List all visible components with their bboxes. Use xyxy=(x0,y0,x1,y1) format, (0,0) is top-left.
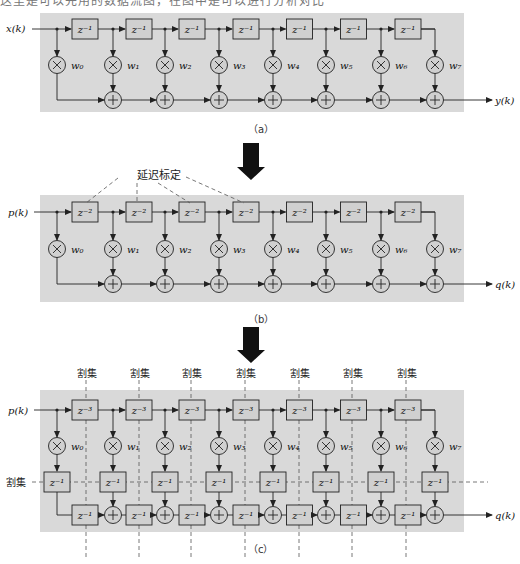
delay-label: z⁻¹ xyxy=(345,24,361,35)
cutset-label: 割集 xyxy=(236,367,256,379)
pipeline-delay-block: z⁻¹ xyxy=(72,505,98,525)
input-label: p(k) xyxy=(8,207,28,218)
adder-node xyxy=(427,276,444,293)
pipeline-delay-block: z⁻¹ xyxy=(179,505,205,525)
delay-label: z⁻¹ xyxy=(157,477,173,488)
weight-label: w₆ xyxy=(395,244,408,255)
delay-label: z⁻³ xyxy=(291,405,307,416)
weight-label: w₀ xyxy=(71,60,84,71)
cutset-label: 割集 xyxy=(77,367,97,379)
delay-label: z⁻¹ xyxy=(291,24,307,35)
delay-block: z⁻³ xyxy=(395,400,421,420)
adder-node xyxy=(157,92,174,109)
cutset-label: 割集 xyxy=(130,367,150,379)
delay-label: z⁻¹ xyxy=(400,510,416,521)
adder-node xyxy=(157,276,174,293)
delay-label: z⁻² xyxy=(291,207,307,218)
delay-block: z⁻³ xyxy=(179,400,205,420)
adder-node xyxy=(318,276,335,293)
output-label: q(k) xyxy=(495,510,515,521)
fir-retiming-diagram: x(k)z⁻¹w₀z⁻¹w₁z⁻¹w₂z⁻¹w₃z⁻¹w₄z⁻¹w₅z⁻¹w₆w… xyxy=(0,0,520,564)
delay-label: z⁻¹ xyxy=(184,510,200,521)
delay-label: z⁻² xyxy=(131,207,147,218)
weight-label: w₄ xyxy=(287,441,300,452)
weight-label: w₀ xyxy=(71,244,84,255)
pipeline-delay-block: z⁻¹ xyxy=(422,472,448,492)
weight-label: w₂ xyxy=(179,60,192,71)
output-label: q(k) xyxy=(495,279,515,290)
delay-label: z⁻¹ xyxy=(211,477,227,488)
adder-node xyxy=(105,507,122,524)
panel-a-direct-form-fir: x(k)z⁻¹w₀z⁻¹w₁z⁻¹w₂z⁻¹w₃z⁻¹w₄z⁻¹w₅z⁻¹w₆w… xyxy=(6,13,515,112)
weight-label: w₃ xyxy=(233,244,246,255)
delay-block: z⁻³ xyxy=(341,400,367,420)
cutset-label: 割集 xyxy=(182,367,202,379)
delay-label: z⁻³ xyxy=(77,405,93,416)
delay-block: z⁻² xyxy=(395,202,421,222)
delay-label: z⁻² xyxy=(184,207,200,218)
adder-node xyxy=(373,92,390,109)
weight-label: w₅ xyxy=(340,244,353,255)
delay-block: z⁻³ xyxy=(72,400,98,420)
delay-label: z⁻² xyxy=(345,207,361,218)
pipeline-delay-block: z⁻¹ xyxy=(260,472,286,492)
delay-label: z⁻¹ xyxy=(184,24,200,35)
adder-node xyxy=(373,276,390,293)
delay-label: z⁻¹ xyxy=(77,510,93,521)
pipeline-delay-block: z⁻¹ xyxy=(126,505,152,525)
delay-scaling-annotation: 延迟标定 xyxy=(137,168,181,182)
delay-label: z⁻¹ xyxy=(400,24,416,35)
adder-node xyxy=(265,507,282,524)
delay-block: z⁻² xyxy=(287,202,313,222)
weight-label: w₃ xyxy=(233,441,246,452)
panel-b-delay-scaled-fir: p(k)z⁻²w₀z⁻²w₁z⁻²w₂z⁻²w₃z⁻²w₄z⁻²w₅z⁻²w₆w… xyxy=(8,168,515,302)
delay-block: z⁻² xyxy=(179,202,205,222)
delay-label: z⁻² xyxy=(77,207,93,218)
pipeline-delay-block: z⁻¹ xyxy=(206,472,232,492)
delay-block: z⁻³ xyxy=(287,400,313,420)
delay-block: z⁻¹ xyxy=(341,19,367,39)
pipeline-delay-block: z⁻¹ xyxy=(395,505,421,525)
adder-node xyxy=(105,276,122,293)
delay-block: z⁻¹ xyxy=(233,19,259,39)
adder-node xyxy=(318,92,335,109)
weight-label: w₁ xyxy=(127,60,140,71)
weight-label: w₂ xyxy=(179,441,192,452)
cutset-label: 割集 xyxy=(397,367,417,379)
caption-b: （b） xyxy=(248,311,274,326)
delay-label: z⁻³ xyxy=(184,405,200,416)
adder-node xyxy=(265,92,282,109)
pipeline-delay-block: z⁻¹ xyxy=(368,472,394,492)
delay-label: z⁻¹ xyxy=(238,24,254,35)
pipeline-delay-block: z⁻¹ xyxy=(44,472,70,492)
delay-block: z⁻¹ xyxy=(126,19,152,39)
delay-block: z⁻¹ xyxy=(395,19,421,39)
pipeline-delay-block: z⁻¹ xyxy=(100,472,126,492)
delay-block: z⁻³ xyxy=(233,400,259,420)
weight-label: w₅ xyxy=(340,441,353,452)
weight-label: w₂ xyxy=(179,244,192,255)
delay-label: z⁻¹ xyxy=(291,510,307,521)
weight-label: w₃ xyxy=(233,60,246,71)
delay-label: z⁻¹ xyxy=(318,477,334,488)
adder-node xyxy=(318,507,335,524)
adder-node xyxy=(157,507,174,524)
adder-node xyxy=(211,507,228,524)
delay-label: z⁻¹ xyxy=(427,477,443,488)
adder-node xyxy=(373,507,390,524)
caption-a: （a） xyxy=(248,121,274,136)
adder-node xyxy=(211,276,228,293)
adder-node xyxy=(211,92,228,109)
adder-node xyxy=(265,276,282,293)
delay-label: z⁻¹ xyxy=(131,24,147,35)
delay-block: z⁻¹ xyxy=(287,19,313,39)
down-arrow-icon xyxy=(237,143,265,180)
delay-label: z⁻³ xyxy=(345,405,361,416)
delay-label: z⁻² xyxy=(238,207,254,218)
weight-label: w₁ xyxy=(127,441,140,452)
weight-label: w₆ xyxy=(395,441,408,452)
weight-label: w₇ xyxy=(449,441,462,452)
output-label: y(k) xyxy=(494,95,515,106)
delay-label: z⁻¹ xyxy=(49,477,65,488)
cutset-label: 割集 xyxy=(343,367,363,379)
